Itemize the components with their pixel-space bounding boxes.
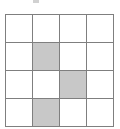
clipped-text-artifact [33,0,39,3]
grid-cell-r3c1[interactable] [6,71,33,99]
grid-cell-r1c3[interactable] [60,15,87,43]
grid-cell-r4c3[interactable] [60,99,87,127]
grid-cell-r3c2[interactable] [33,71,60,99]
grid-cell-r2c3[interactable] [60,43,87,71]
grid-cell-r3c3[interactable] [60,71,87,99]
table-row [6,15,114,43]
grid-cell-r1c1[interactable] [6,15,33,43]
grid-cell-r1c4[interactable] [87,15,114,43]
table-row [6,43,114,71]
table-row [6,71,114,99]
table-row [6,99,114,127]
grid-cell-r1c2[interactable] [33,15,60,43]
grid-cell-r2c4[interactable] [87,43,114,71]
grid-cell-r2c2[interactable] [33,43,60,71]
grid-cell-r4c1[interactable] [6,99,33,127]
grid-cell-r3c4[interactable] [87,71,114,99]
grid-cell-r4c2[interactable] [33,99,60,127]
grid-cell-r4c4[interactable] [87,99,114,127]
grid-cell-r2c1[interactable] [6,43,33,71]
grid-table [5,14,114,127]
grid-figure [5,14,109,122]
grid-body [6,15,114,127]
